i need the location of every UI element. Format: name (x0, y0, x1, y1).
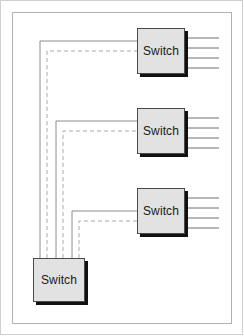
diagram-canvas: Switch Switch Switch Switch (0, 0, 244, 336)
link-bottom-to-top-solid (40, 41, 137, 258)
ports-group (185, 38, 219, 228)
links-group (40, 41, 137, 258)
switch-node-top[interactable]: Switch (137, 28, 185, 74)
link-bottom-to-lower-solid (72, 211, 137, 258)
switch-node-lower[interactable]: Switch (137, 188, 185, 234)
switch-label: Switch (41, 274, 77, 286)
switch-node-bottom[interactable]: Switch (33, 258, 85, 302)
switch-node-middle[interactable]: Switch (137, 108, 185, 154)
link-bottom-to-middle-dashed (63, 131, 137, 258)
switch-label: Switch (143, 45, 179, 57)
switch-label: Switch (143, 205, 179, 217)
link-bottom-to-middle-solid (56, 121, 137, 258)
link-bottom-to-top-dashed (47, 51, 137, 258)
switch-label: Switch (143, 125, 179, 137)
link-bottom-to-lower-dashed (79, 221, 137, 258)
